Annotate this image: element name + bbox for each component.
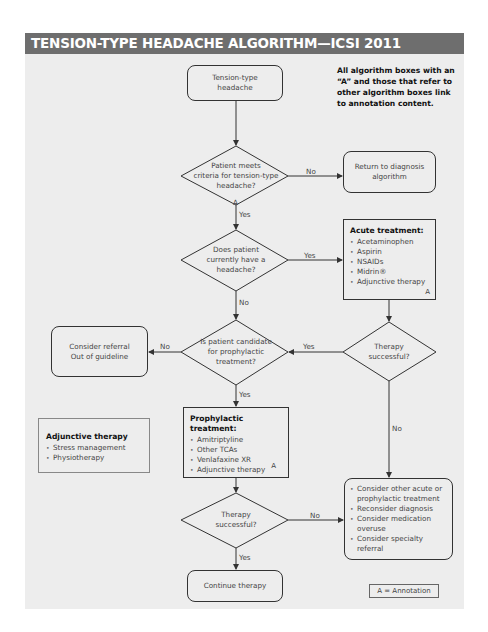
edge-label-current-no: No [239, 298, 249, 307]
acute-treatment-list: Acetaminophen Aspirin NSAIDs Midrin® Adj… [350, 237, 429, 287]
list-item: Consider specialty referral [350, 534, 446, 554]
list-item: Stress management [46, 443, 142, 453]
node-return-diagnosis[interactable]: Return to diagnosis algorithm [343, 151, 436, 193]
decision-criteria[interactable]: Patient meets criteria for tension-type … [186, 161, 286, 191]
list-item: Consider medication overuse [350, 514, 446, 534]
decision-candidate-line1: Is patient candidate [186, 337, 286, 347]
prophylactic-treatment-list: Amitriptyline Other TCAs Venlafaxine XR … [190, 435, 282, 475]
annotation-legend: A = Annotation [369, 584, 439, 598]
edge-label-therapy1-no: No [392, 424, 402, 433]
prophylactic-annotation-marker[interactable]: A [271, 461, 276, 471]
list-item: Midrin® [350, 267, 429, 277]
list-item: Amitriptyline [190, 435, 282, 445]
decision-criteria-line1: Patient meets [186, 161, 286, 171]
decision-criteria-line2: criteria for tension-type [186, 171, 286, 181]
decision-criteria-line3: headache? [186, 181, 286, 191]
decision-therapy2-line1: Therapy [196, 510, 276, 520]
edge-label-criteria-yes: Yes [239, 210, 251, 219]
list-item: Aspirin [350, 247, 429, 257]
node-acute-treatment[interactable]: Acute treatment: Acetaminophen Aspirin N… [343, 219, 436, 300]
decision-prophylactic-candidate[interactable]: Is patient candidate for prophylactic tr… [186, 337, 286, 367]
list-item: Adjunctive therapy [190, 465, 282, 475]
list-item: Venlafaxine XR [190, 455, 282, 465]
list-item: Reconsider diagnosis [350, 504, 446, 514]
node-start-label: Tension-type headache [205, 73, 265, 93]
node-start[interactable]: Tension-type headache [187, 65, 283, 101]
list-item: NSAIDs [350, 257, 429, 267]
acute-treatment-title: Acute treatment: [350, 226, 429, 236]
decision-candidate-line3: treatment? [186, 357, 286, 367]
list-item: Other TCAs [190, 445, 282, 455]
decision-current-headache[interactable]: Does patient currently have a headache? [186, 245, 286, 275]
adjunctive-therapy-list: Stress management Physiotherapy [46, 443, 142, 463]
prophylactic-treatment-title: Prophylactic treatment: [190, 414, 282, 434]
adjunctive-therapy-title: Adjunctive therapy [46, 432, 142, 442]
criteria-annotation-marker[interactable]: A [233, 198, 238, 207]
node-return-diagnosis-label: Return to diagnosis algorithm [355, 162, 425, 182]
list-item: Physiotherapy [46, 453, 142, 463]
edge-label-candidate-yes: Yes [239, 390, 251, 399]
acute-annotation-marker[interactable]: A [425, 287, 430, 297]
node-consider-referral[interactable]: Consider referral Out of guideline [51, 326, 148, 377]
list-item: Adjunctive therapy [350, 277, 429, 287]
decision-therapy1-line2: successful? [349, 352, 429, 362]
list-item: Acetaminophen [350, 237, 429, 247]
decision-candidate-line2: for prophylactic [186, 347, 286, 357]
annotation-note: All algorithm boxes with an “A” and thos… [337, 65, 455, 109]
node-adjunctive-therapy[interactable]: Adjunctive therapy Stress management Phy… [38, 418, 150, 473]
decision-current-line3: headache? [186, 265, 286, 275]
edge-label-current-yes: Yes [304, 251, 316, 260]
decision-therapy-successful-1[interactable]: Therapy successful? [349, 342, 429, 362]
decision-current-line2: currently have a [186, 255, 286, 265]
edge-label-therapy2-yes: Yes [239, 553, 251, 562]
edge-label-therapy1-yes: Yes [303, 342, 315, 351]
node-continue-therapy-label: Continue therapy [204, 581, 267, 591]
node-prophylactic-treatment[interactable]: Prophylactic treatment: Amitriptyline Ot… [183, 407, 289, 478]
decision-therapy-successful-2[interactable]: Therapy successful? [196, 510, 276, 530]
decision-current-line1: Does patient [186, 245, 286, 255]
node-consider-options[interactable]: Consider other acute or prophylactic tre… [344, 478, 453, 560]
consider-options-list: Consider other acute or prophylactic tre… [350, 484, 446, 554]
node-continue-therapy[interactable]: Continue therapy [187, 570, 283, 602]
edge-label-therapy2-no: No [310, 511, 320, 520]
referral-line1: Consider referral [69, 342, 129, 352]
referral-line2: Out of guideline [69, 352, 129, 362]
decision-therapy2-line2: successful? [196, 520, 276, 530]
decision-therapy1-line1: Therapy [349, 342, 429, 352]
edge-label-criteria-no: No [306, 167, 316, 176]
list-item: Consider other acute or prophylactic tre… [350, 484, 446, 504]
edge-label-candidate-no: No [160, 342, 170, 351]
